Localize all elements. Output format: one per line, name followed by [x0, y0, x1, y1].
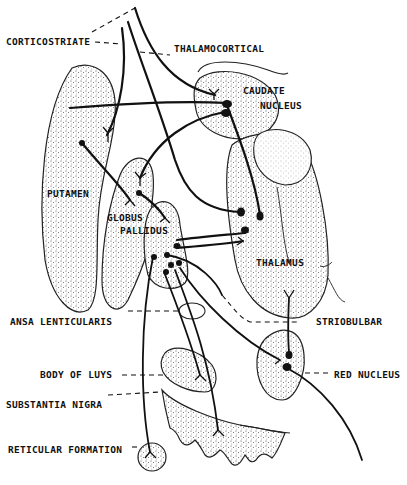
substantia-nigra-shape	[162, 390, 285, 465]
label-thalamocortical: THALAMOCORTICAL	[174, 44, 264, 54]
label-caudate: CAUDATE	[243, 86, 285, 96]
label-pallidus: PALLIDUS	[120, 226, 168, 236]
label-putamen: PUTAMEN	[47, 189, 89, 199]
label-nucleus: NUCLEUS	[260, 101, 302, 111]
red-nucleus-shape	[257, 330, 304, 400]
label-reticular-formation: RETICULAR FORMATION	[8, 445, 122, 455]
reticular-formation-shape	[138, 443, 166, 471]
thalamus-to-red-nucleus-fiber	[288, 298, 289, 352]
thalamus-tail	[328, 278, 345, 302]
label-striobulbar: STRIOBULBAR	[316, 317, 382, 327]
label-ansa-lenticularis: ANSA LENTICULARIS	[10, 317, 112, 327]
basal-ganglia-diagram	[0, 0, 407, 485]
label-thalamus: THALAMUS	[256, 258, 304, 268]
gp-to-reticular-fiber	[143, 257, 153, 452]
label-substantia-nigra: SUBSTANTIA NIGRA	[6, 400, 102, 410]
label-corticostriate: CORTICOSTRIATE	[6, 37, 90, 47]
label-red-nucleus: RED NUCLEUS	[334, 370, 400, 380]
label-globus: GLOBUS	[107, 213, 143, 223]
caudate-outline	[198, 62, 288, 74]
label-body-of-luys: BODY OF LUYS	[40, 370, 112, 380]
